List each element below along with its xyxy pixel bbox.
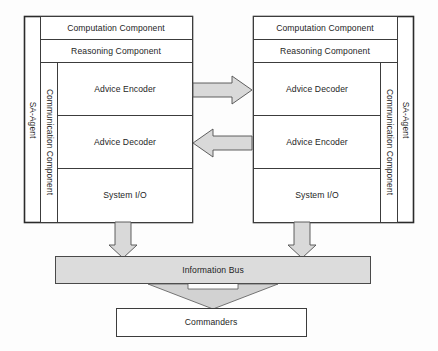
right-advice-encoder-label: Advice Encoder bbox=[286, 137, 348, 147]
left-advice-encoder-label: Advice Encoder bbox=[94, 84, 156, 94]
left-agent-group: SA-Agent Communication Component Computa… bbox=[25, 17, 193, 223]
left-communication-component-label: Communication Component bbox=[45, 89, 55, 196]
right-communication-component-label: Communication Component bbox=[385, 89, 395, 196]
left-reasoning-component-label: Reasoning Component bbox=[71, 46, 161, 56]
bus-to-commanders-arrow bbox=[148, 284, 278, 309]
left-advice-decoder-label: Advice Decoder bbox=[94, 137, 156, 147]
right-system-io-label: System I/O bbox=[295, 190, 339, 200]
commanders-label: Commanders bbox=[185, 317, 238, 327]
encoder-to-decoder-arrow-left bbox=[193, 129, 252, 157]
left-system-io-label: System I/O bbox=[103, 190, 147, 200]
information-bus-label: Information Bus bbox=[182, 265, 244, 275]
encoder-to-decoder-arrow-right bbox=[193, 76, 252, 104]
architecture-diagram: SA-Agent Communication Component Computa… bbox=[0, 0, 438, 351]
right-sa-agent-label: SA-Agent bbox=[401, 102, 411, 139]
right-agent-group: SA-Agent Communication Component Computa… bbox=[254, 17, 414, 223]
right-computation-component-label: Computation Component bbox=[276, 23, 374, 33]
left-computation-component-label: Computation Component bbox=[67, 23, 165, 33]
left-system-io-to-bus-arrow bbox=[109, 222, 137, 258]
right-advice-decoder-label: Advice Decoder bbox=[286, 84, 348, 94]
right-system-io-to-bus-arrow bbox=[288, 222, 316, 258]
right-reasoning-component-label: Reasoning Component bbox=[280, 46, 370, 56]
left-sa-agent-label: SA-Agent bbox=[28, 102, 38, 139]
